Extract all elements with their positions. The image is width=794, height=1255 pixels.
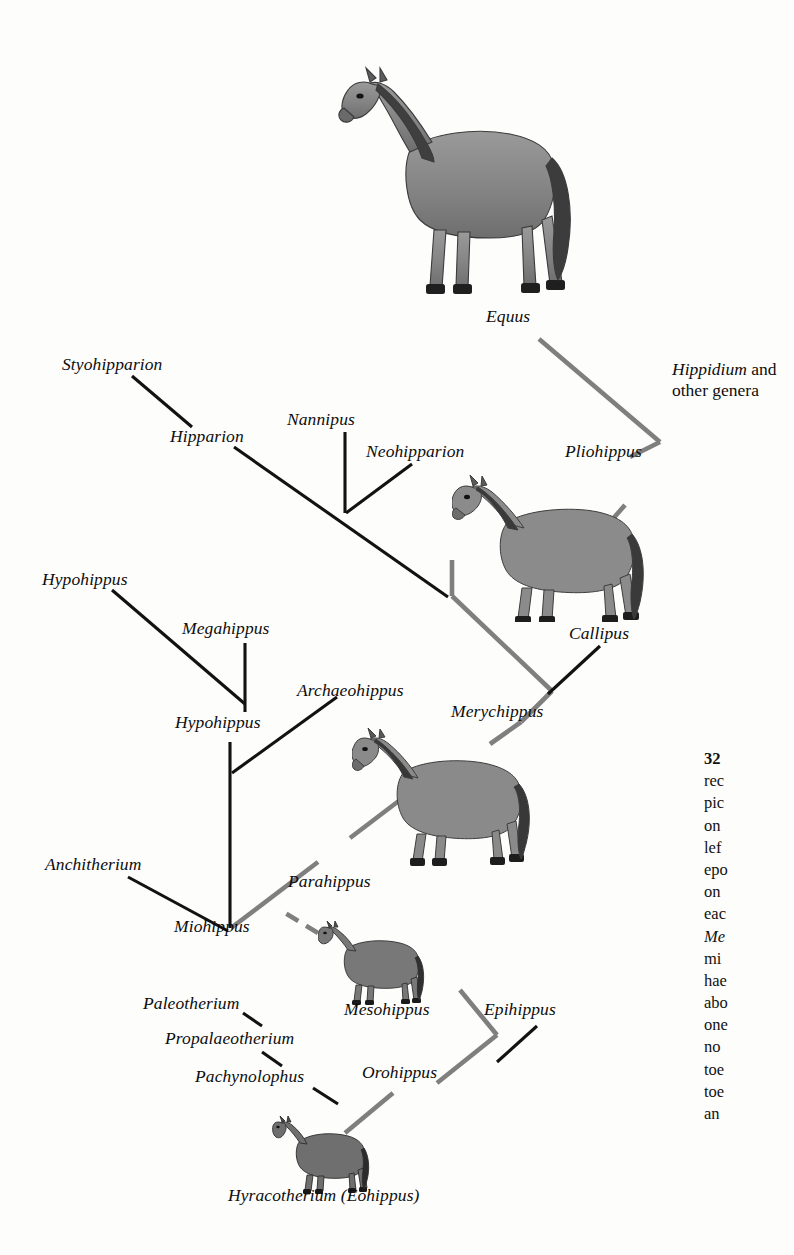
taxon-label-hipparion: Hipparion [170, 427, 244, 447]
horse-illustration-mesohippus [318, 920, 428, 1006]
caption-line: on [704, 881, 794, 903]
lineage-orohippus-elbow [437, 1035, 497, 1083]
horse-illustration-merychippus [352, 726, 542, 866]
figure-caption: 32recpiconlefepooneacMemihaeaboonenotoet… [704, 748, 794, 1208]
taxon-label-hippidium: Hippidium and other genera [672, 359, 777, 400]
branch-pachynolophus [313, 1088, 338, 1104]
taxon-label-pachynolophus: Pachynolophus [195, 1067, 304, 1087]
caption-line: epo [704, 859, 794, 881]
caption-line: pic [704, 792, 794, 814]
caption-line: toe [704, 1059, 794, 1081]
taxon-label-pliohippus: Pliohippus [565, 442, 642, 462]
horse-illustration-hyracotherium [272, 1115, 372, 1195]
taxon-label-mesohippus: Mesohippus [344, 1000, 430, 1020]
branch-paleotherium [243, 1013, 262, 1026]
horse-illustration-equus [338, 62, 588, 302]
taxon-label-epihippus: Epihippus [484, 1000, 556, 1020]
hippidium-other-genera: other genera [672, 380, 759, 400]
taxon-label-neohipparion: Neohipparion [366, 442, 464, 462]
taxon-label-hypohippus-node: Hypohippus [175, 713, 261, 733]
taxon-label-archaeohippus: Archaeohippus [297, 681, 404, 701]
branch-hipparion-trunk [234, 447, 448, 597]
taxon-label-nannipus: Nannipus [287, 410, 355, 430]
taxon-label-megahippus: Megahippus [182, 619, 270, 639]
caption-line: on [704, 815, 794, 837]
taxon-label-paleotherium: Paleotherium [143, 994, 239, 1014]
caption-line: rec [704, 770, 794, 792]
taxon-label-anchitherium: Anchitherium [45, 855, 141, 875]
branch-archaeohippus [232, 697, 337, 773]
caption-line: no [704, 1036, 794, 1058]
caption-line: an [704, 1103, 794, 1125]
caption-line: eac [704, 903, 794, 925]
taxon-label-orohippus: Orohippus [362, 1063, 437, 1083]
caption-line: toe [704, 1081, 794, 1103]
caption-line: Me [704, 926, 794, 948]
taxon-label-hyracotherium: Hyracotherium (Eohippus) [228, 1186, 419, 1206]
lineage-horse-miohippus [285, 913, 318, 933]
caption-line: 32 [704, 748, 794, 770]
hippidium-and: and [747, 359, 777, 379]
horse-illustration-pliohippus [452, 472, 657, 622]
lineage-equus-hippidium [539, 339, 660, 442]
figure-canvas: Equus Hippidium and other genera Styohip… [0, 0, 794, 1255]
taxon-label-propalaeotherium: Propalaeotherium [165, 1029, 294, 1049]
caption-line: one [704, 1014, 794, 1036]
taxon-label-hypohippus-upper: Hypohippus [42, 570, 128, 590]
branch-neohipparion [346, 464, 412, 513]
taxon-label-merychippus: Merychippus [451, 702, 543, 722]
caption-line: lef [704, 837, 794, 859]
branch-propalaeotherium [262, 1052, 282, 1066]
taxon-label-miohippus: Miohippus [174, 917, 250, 937]
taxon-label-parahippus: Parahippus [288, 872, 371, 892]
branch-hypohippus-upper [112, 590, 245, 704]
branch-styohipparion [132, 376, 192, 427]
taxon-label-styohipparion: Styohipparion [62, 355, 162, 375]
caption-line: hae [704, 970, 794, 992]
hippidium-genus: Hippidium [672, 359, 747, 379]
caption-line: abo [704, 992, 794, 1014]
branch-callipus [548, 646, 600, 694]
taxon-label-callipus: Callipus [569, 624, 629, 644]
caption-line: mi [704, 948, 794, 970]
branch-epihippus [497, 1026, 537, 1062]
taxon-label-equus: Equus [486, 307, 530, 327]
